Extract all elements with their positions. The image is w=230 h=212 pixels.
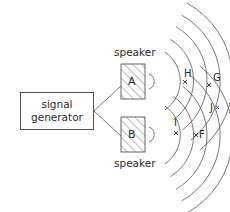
speaker-b-letter: B <box>128 128 136 141</box>
wire-to-speaker-b <box>94 111 121 136</box>
speaker-b-caption: speaker <box>114 157 156 169</box>
speaker-a-caption: speaker <box>114 46 156 58</box>
speaker-b-emitter-arc <box>149 127 154 142</box>
speaker-a <box>121 64 154 99</box>
generator-label-line1: signal <box>41 98 72 111</box>
point-j-marker <box>216 106 219 109</box>
point-j-label: J <box>210 102 213 113</box>
generator-label-line2: generator <box>31 111 83 124</box>
point-f-label: F <box>199 129 205 140</box>
two-speaker-interference-diagram: signal generator speaker speaker A B H G… <box>0 0 230 212</box>
point-h-label: H <box>184 68 192 79</box>
point-h-marker <box>183 80 187 84</box>
point-i-label: I <box>174 117 177 128</box>
connection-wires <box>94 86 121 136</box>
speaker-a-letter: A <box>128 75 136 88</box>
speaker-a-emitter-arc <box>149 74 154 89</box>
point-i-marker <box>174 131 178 135</box>
wire-to-speaker-a <box>94 86 121 111</box>
signal-generator-box: signal generator <box>20 92 94 130</box>
point-g-label: G <box>213 72 221 83</box>
speaker-b <box>121 117 154 152</box>
point-g-marker <box>207 83 211 87</box>
